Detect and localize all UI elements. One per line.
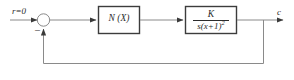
input-label: r=0	[12, 7, 26, 16]
denominator-exponent: 2	[221, 19, 224, 26]
denominator-base: s(x+1)	[197, 21, 221, 31]
block-diagram: r=0 – N (X) K s(x+1)2 c	[0, 0, 294, 80]
transfer-function-denominator: s(x+1)2	[197, 22, 224, 32]
block-nonlinearity-label: N (X)	[98, 14, 140, 24]
negative-feedback-sign: –	[35, 25, 40, 35]
diagram-canvas	[0, 0, 294, 80]
block-plant-transfer-function: K s(x+1)2	[185, 7, 237, 34]
output-label: c	[277, 8, 281, 17]
transfer-function-numerator: K	[208, 9, 214, 19]
